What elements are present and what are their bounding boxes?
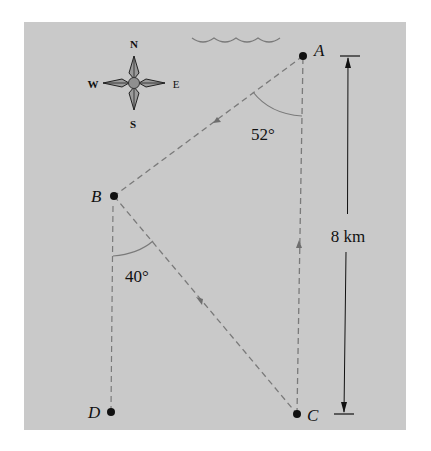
- label-b: B: [91, 187, 102, 206]
- angle-label-b: 40°: [125, 267, 149, 286]
- dimension-label: 8 km: [331, 227, 365, 246]
- point-c: [293, 410, 301, 418]
- point-a: [299, 52, 307, 60]
- compass-east-label: E: [173, 78, 180, 90]
- diagram-canvas: N S W E A B C D 52° 40° 8 km: [0, 0, 431, 451]
- angle-label-a: 52°: [251, 125, 275, 144]
- point-d: [107, 408, 115, 416]
- point-b: [110, 192, 118, 200]
- label-d: D: [87, 403, 101, 422]
- figure-panel: [24, 22, 406, 430]
- compass-west-label: W: [88, 78, 99, 90]
- compass-south-label: S: [130, 118, 136, 130]
- compass-north-label: N: [130, 38, 138, 50]
- label-a: A: [313, 41, 325, 60]
- label-c: C: [307, 406, 319, 425]
